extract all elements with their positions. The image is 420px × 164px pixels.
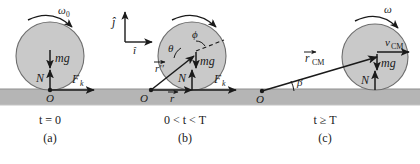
unit-vector-axes: ĵ î bbox=[110, 12, 152, 56]
beta-label-c: β bbox=[296, 76, 303, 88]
origin-label-c: O bbox=[256, 93, 264, 105]
j-axis-label: ĵ bbox=[110, 15, 116, 29]
ground-strip bbox=[0, 89, 420, 105]
r-cm-subscript-c: CM bbox=[312, 58, 324, 67]
normal-label-c: N bbox=[360, 73, 370, 87]
friction-label-b: F bbox=[213, 73, 222, 85]
r-cm-label-c: r bbox=[305, 52, 310, 64]
omega-subscript-a: 0 bbox=[66, 10, 70, 19]
caption-letter-a: (a) bbox=[43, 131, 56, 145]
physics-figure: ω 0 mg N F k O t = 0 (a) ĵ î bbox=[0, 0, 420, 164]
panel-a: ω 0 mg N F k O t = 0 (a) bbox=[16, 4, 94, 145]
caption-time-b: 0 < t < T bbox=[164, 113, 207, 127]
normal-label-a: N bbox=[35, 71, 45, 85]
v-cm-label-c: v bbox=[385, 36, 390, 48]
omega-label-c: ω bbox=[384, 3, 392, 15]
caption-letter-b: (b) bbox=[178, 131, 192, 145]
figure-canvas: ω 0 mg N F k O t = 0 (a) ĵ î bbox=[0, 0, 420, 164]
origin-dot-b bbox=[149, 88, 153, 92]
panel-b: ϕ θ r′′ r mg N F k O bbox=[140, 15, 236, 145]
i-axis-label: î bbox=[133, 44, 137, 56]
r-vector-label-b: r bbox=[170, 92, 175, 104]
caption-time-c: t ≥ T bbox=[313, 113, 337, 127]
friction-label-a: F bbox=[71, 73, 80, 85]
friction-subscript-b: k bbox=[222, 79, 226, 88]
r-double-prime-label-b: r′′ bbox=[155, 63, 164, 74]
weight-label-b: mg bbox=[200, 54, 215, 68]
caption-time-a: t = 0 bbox=[39, 113, 61, 127]
panel-c: ω r CM β v CM mg N O t ≥ T (c) bbox=[256, 3, 409, 145]
origin-label-a: O bbox=[46, 92, 54, 104]
origin-label-b: O bbox=[140, 92, 148, 104]
caption-letter-c: (c) bbox=[318, 131, 331, 145]
v-cm-subscript-c: CM bbox=[391, 42, 403, 51]
weight-label-c: mg bbox=[381, 56, 396, 70]
omega-label-a: ω bbox=[58, 4, 66, 16]
friction-subscript-a: k bbox=[80, 79, 84, 88]
normal-label-b: N bbox=[177, 71, 187, 85]
phi-label-b: ϕ bbox=[192, 28, 198, 40]
weight-label-a: mg bbox=[55, 51, 70, 65]
theta-label-b: θ bbox=[168, 42, 174, 54]
